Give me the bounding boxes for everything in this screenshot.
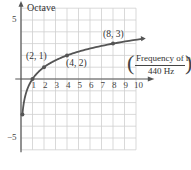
x-tick-label: 10 bbox=[134, 81, 143, 90]
y-tick-label: −5 bbox=[7, 133, 17, 142]
x-tick-label: 5 bbox=[78, 81, 83, 90]
x-tick-label: 6 bbox=[89, 81, 94, 90]
x-tick-label: 1 bbox=[32, 81, 37, 90]
x-tick-label: 8 bbox=[112, 81, 117, 90]
x-tick-label: 3 bbox=[55, 81, 60, 90]
point-annotation: (2, 1) bbox=[26, 52, 47, 62]
x-axis-label-denominator: 440 Hz bbox=[148, 67, 174, 76]
octave-chart bbox=[0, 0, 191, 170]
x-tick-label: 4 bbox=[66, 81, 71, 90]
x-axis-label: ( Frequency of note 440 Hz ) bbox=[127, 50, 191, 80]
y-tick-label: 5 bbox=[12, 15, 17, 24]
point-annotation: (8, 3) bbox=[103, 30, 124, 40]
x-tick-label: 9 bbox=[124, 81, 129, 90]
x-tick-label: 2 bbox=[43, 81, 48, 90]
point-annotation: (4, 2) bbox=[66, 59, 87, 69]
x-tick-label: 7 bbox=[101, 81, 106, 90]
x-axis-label-numerator: Frequency of note bbox=[136, 54, 191, 63]
y-axis-label: Octave bbox=[27, 3, 55, 13]
